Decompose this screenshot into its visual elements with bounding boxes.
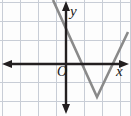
coordinate-plane-figure: y x O xyxy=(0,0,131,116)
origin-label: O xyxy=(57,65,67,79)
y-axis-label: y xyxy=(70,4,77,19)
graph-canvas xyxy=(0,0,131,116)
x-axis-label: x xyxy=(116,64,123,79)
